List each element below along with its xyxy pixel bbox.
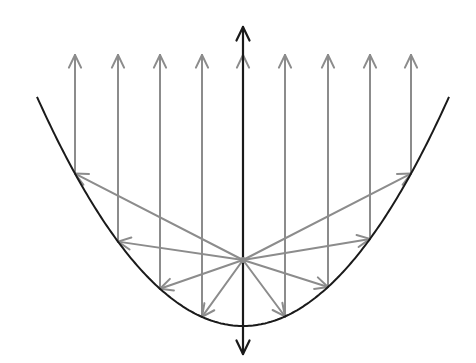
focus-point — [240, 257, 246, 263]
focus-ray — [243, 260, 285, 316]
arrow-head-icon-barb — [357, 235, 370, 239]
axis-of-symmetry — [236, 27, 249, 354]
parabolic-reflector-diagram — [0, 0, 476, 363]
focus-ray — [202, 260, 243, 317]
arrow-head-icon-barb — [118, 237, 131, 241]
